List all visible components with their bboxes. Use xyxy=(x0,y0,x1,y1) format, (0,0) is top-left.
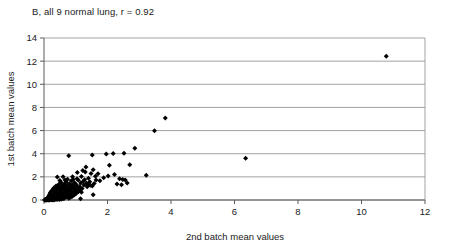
y-tick-label: 8 xyxy=(32,102,37,113)
data-point xyxy=(384,54,389,59)
x-tick-label: 4 xyxy=(168,206,173,217)
data-point-series xyxy=(42,54,389,203)
data-point xyxy=(112,172,117,177)
data-point xyxy=(152,128,157,133)
x-tick-label: 6 xyxy=(232,206,237,217)
x-axis-tick-labels: 024681012 xyxy=(41,206,430,217)
y-axis-title: 1st batch mean values xyxy=(5,71,16,166)
plot-frame xyxy=(44,38,425,200)
y-tick-label: 12 xyxy=(26,56,37,67)
scatter-plot-figure: B, all 9 normal lung, r = 0.92 024681012… xyxy=(0,0,452,246)
y-tick-label: 0 xyxy=(32,194,37,205)
x-tick-label: 8 xyxy=(295,206,300,217)
data-point xyxy=(97,178,102,183)
y-tick-label: 14 xyxy=(26,32,37,43)
y-tick-label: 2 xyxy=(32,171,37,182)
x-axis-title: 2nd batch mean values xyxy=(186,231,284,242)
plot-canvas: 02468101214 024681012 2nd batch mean val… xyxy=(0,0,452,246)
data-point xyxy=(163,116,168,121)
data-point xyxy=(122,151,127,156)
y-tick-label: 10 xyxy=(26,79,37,90)
data-point xyxy=(101,175,106,180)
grid-lines xyxy=(44,38,425,200)
data-point xyxy=(107,163,112,168)
data-point xyxy=(83,164,88,169)
y-tick-label: 4 xyxy=(32,148,37,159)
data-point xyxy=(132,146,137,151)
x-axis-ticks xyxy=(44,200,425,204)
data-point xyxy=(79,174,84,179)
y-tick-label: 6 xyxy=(32,125,37,136)
x-tick-label: 0 xyxy=(41,206,46,217)
y-axis-tick-labels: 02468101214 xyxy=(26,32,37,205)
data-point xyxy=(106,173,111,178)
x-tick-label: 2 xyxy=(105,206,110,217)
data-point xyxy=(104,151,109,156)
data-point xyxy=(111,151,116,156)
data-point xyxy=(55,175,60,180)
data-point xyxy=(91,192,96,197)
data-point xyxy=(78,196,83,201)
data-point xyxy=(115,182,120,187)
y-axis-ticks xyxy=(40,38,44,200)
x-tick-label: 10 xyxy=(356,206,367,217)
x-tick-label: 12 xyxy=(420,206,431,217)
data-point xyxy=(243,156,248,161)
data-point xyxy=(75,170,80,175)
data-point xyxy=(127,162,132,167)
data-point xyxy=(119,182,124,187)
